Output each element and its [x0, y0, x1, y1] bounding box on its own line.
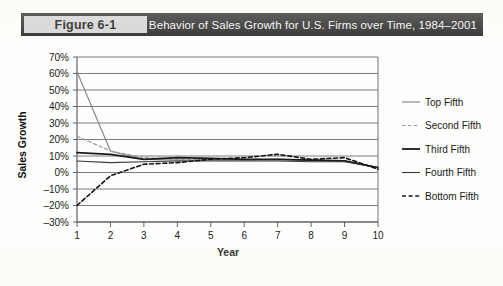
series-line	[77, 161, 378, 168]
x-tick-label: 4	[175, 230, 181, 241]
x-tick-label: 2	[108, 230, 114, 241]
y-tick-label: 10%	[49, 151, 69, 162]
figure-root: Figure 6-1 Behavior of Sales Growth for …	[0, 0, 503, 286]
x-tick-label: 9	[342, 230, 348, 241]
figure-number-label: Figure 6-1	[55, 18, 117, 32]
gridlines-group	[77, 57, 378, 222]
x-tick-label: 6	[241, 230, 247, 241]
y-tick-label: –20%	[43, 200, 69, 211]
figure-title-container: Behavior of Sales Growth for U.S. Firms …	[147, 13, 483, 36]
legend-label: Fourth Fifth	[425, 167, 476, 178]
figure-header-bar: Figure 6-1 Behavior of Sales Growth for …	[21, 13, 483, 36]
y-axis-title: Sales Growth	[16, 111, 28, 178]
data-series-group	[77, 72, 378, 206]
x-axis-tick-marks	[77, 222, 378, 227]
y-axis-tick-marks	[73, 57, 77, 222]
line-chart: 70%60%50%40%30%20%10%0%–10%–20%–30% 1234…	[0, 40, 503, 286]
y-tick-label: 70%	[49, 52, 69, 63]
x-tick-label: 10	[372, 230, 384, 241]
y-tick-label: –30%	[43, 217, 69, 228]
chart-area: 70%60%50%40%30%20%10%0%–10%–20%–30% 1234…	[0, 40, 503, 286]
y-tick-label: 40%	[49, 101, 69, 112]
x-tick-label: 1	[74, 230, 80, 241]
y-tick-label: 20%	[49, 134, 69, 145]
x-tick-label: 7	[275, 230, 281, 241]
chart-legend: Top FifthSecond FifthThird FifthFourth F…	[402, 97, 481, 202]
y-tick-label: 30%	[49, 118, 69, 129]
x-tick-label: 8	[308, 230, 314, 241]
legend-label: Second Fifth	[425, 120, 481, 131]
figure-title-label: Behavior of Sales Growth for U.S. Firms …	[149, 19, 477, 31]
y-tick-label: –10%	[43, 184, 69, 195]
x-axis-title: Year	[217, 246, 239, 258]
y-tick-label: 0%	[55, 167, 70, 178]
x-tick-label: 5	[208, 230, 214, 241]
y-axis-tick-labels: 70%60%50%40%30%20%10%0%–10%–20%–30%	[43, 52, 69, 228]
y-tick-label: 60%	[49, 68, 69, 79]
figure-number-box: Figure 6-1	[24, 16, 147, 33]
y-tick-label: 50%	[49, 85, 69, 96]
legend-label: Bottom Fifth	[425, 191, 479, 202]
legend-label: Top Fifth	[425, 97, 463, 108]
x-axis-tick-labels: 12345678910	[74, 230, 384, 241]
legend-label: Third Fifth	[425, 144, 470, 155]
x-tick-label: 3	[141, 230, 147, 241]
